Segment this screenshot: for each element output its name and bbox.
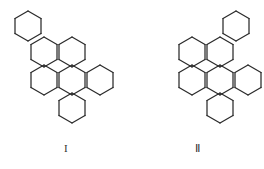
ring-bond (235, 88, 248, 96)
ring-bond (44, 88, 57, 96)
ring-bond (28, 11, 41, 19)
ring-bond (59, 93, 72, 101)
ring-bond (207, 116, 220, 124)
ring-bond (59, 65, 72, 73)
figure-II-label: Ⅱ (132, 142, 264, 154)
ring-bond (236, 11, 249, 19)
ring-bond (72, 37, 85, 45)
ring-bond (31, 88, 44, 96)
ring-bond (31, 65, 44, 73)
ring-bond (100, 65, 113, 73)
ring-bond (59, 37, 72, 45)
ring-bond (223, 11, 236, 19)
ring-bond (100, 88, 113, 96)
figure-I: I (0, 0, 132, 169)
ring-bond (207, 37, 220, 45)
ring-bond (248, 65, 261, 73)
ring-bond (220, 93, 233, 101)
ring-bond (235, 65, 248, 73)
ring-bond (220, 65, 233, 73)
figure-I-label: I (0, 142, 132, 154)
ring-bond (192, 65, 205, 73)
ring-bond (72, 93, 85, 101)
ring-bond (179, 88, 192, 96)
ring-bond (207, 93, 220, 101)
ring-bond (207, 65, 220, 73)
ring-bond (44, 37, 57, 45)
ring-bond (87, 88, 100, 96)
ring-bond (192, 88, 205, 96)
ring-bond (15, 34, 28, 42)
ring-bond (72, 116, 85, 124)
figure-II: Ⅱ (132, 0, 264, 169)
figure-panel: I Ⅱ (0, 0, 264, 169)
ring-bond (248, 88, 261, 96)
ring-bond (179, 65, 192, 73)
structure-I-drawing (0, 0, 132, 140)
ring-bond (220, 116, 233, 124)
ring-bond (192, 37, 205, 45)
ring-bond (236, 34, 249, 42)
ring-bond (59, 116, 72, 124)
ring-bond (72, 65, 85, 73)
ring-bond (87, 65, 100, 73)
structure-II-drawing (132, 0, 264, 140)
ring-bond (179, 37, 192, 45)
ring-bond (15, 11, 28, 19)
ring-bond (44, 65, 57, 73)
